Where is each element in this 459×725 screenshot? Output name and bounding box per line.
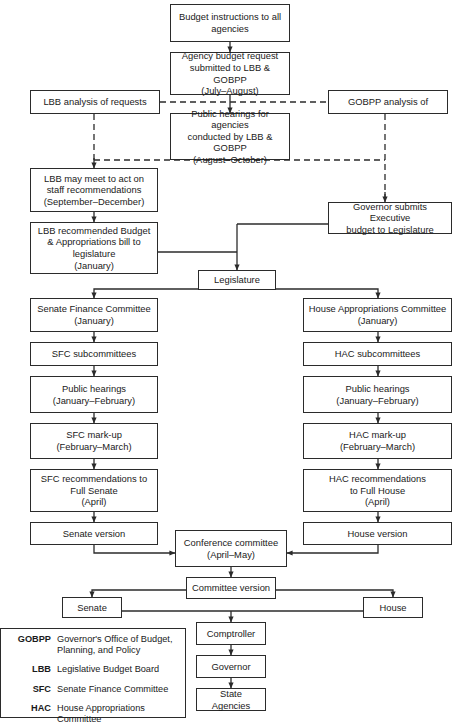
node-gobpp-analysis[interactable]: GOBPP analysis of: [328, 90, 448, 114]
connector-legislature-to-senate-col: [94, 289, 198, 298]
node-senate-version-label: Senate version: [63, 528, 126, 540]
node-comptroller[interactable]: Comptroller: [196, 622, 266, 645]
legend-item-hac: HAC House Appropriations Committee: [5, 703, 181, 725]
legend-item-lbb: LBB Legislative Budget Board: [5, 664, 181, 675]
node-committee-version-label: Committee version: [192, 582, 270, 594]
node-state-agencies[interactable]: State Agencies: [196, 688, 266, 711]
connector-committeeversion-to-house: [276, 590, 393, 597]
node-senate-finance-committee-label: Senate Finance Committee(January): [37, 303, 151, 326]
node-house-appropriations-committee[interactable]: House Appropriations Committee(January): [303, 298, 452, 332]
node-governor-submits-executive-budget[interactable]: Governor submits Executivebudget to Legi…: [328, 202, 452, 234]
node-agency-budget-request[interactable]: Agency budget requestsubmitted to LBB & …: [170, 52, 290, 95]
legend-abbr-hac: HAC: [5, 703, 57, 725]
node-governor-submits-executive-budget-label: Governor submits Executivebudget to Legi…: [332, 201, 448, 236]
node-senate-public-hearings-label: Public hearings(January–February): [53, 383, 135, 406]
node-sfc-recommendations[interactable]: SFC recommendations toFull Senate(April): [30, 469, 158, 512]
node-public-hearings-agencies-label: Public hearings for agenciesconducted by…: [174, 108, 286, 166]
legend: GOBPP Governor's Office of Budget,Planni…: [0, 628, 186, 718]
node-hac-markup-label: HAC mark-up(February–March): [340, 429, 415, 452]
node-house-label: House: [379, 602, 406, 614]
connector-senateversion-to-conference: [94, 545, 175, 553]
node-sfc-markup[interactable]: SFC mark-up(February–March): [30, 423, 158, 459]
node-lbb-recommended-budget[interactable]: LBB recommended Budget& Appropriations b…: [30, 222, 158, 274]
node-legislature[interactable]: Legislature: [198, 270, 276, 290]
node-governor[interactable]: Governor: [196, 655, 266, 678]
node-senate[interactable]: Senate: [62, 597, 122, 618]
node-house[interactable]: House: [363, 597, 423, 618]
legend-item-gobpp: GOBPP Governor's Office of Budget,Planni…: [5, 634, 181, 656]
node-budget-instructions-label: Budget instructions to allagencies: [179, 11, 281, 34]
legend-item-sfc: SFC Senate Finance Committee: [5, 684, 181, 695]
node-gobpp-analysis-label: GOBPP analysis of: [348, 96, 428, 108]
legend-abbr-sfc: SFC: [5, 684, 57, 695]
node-lbb-recommended-budget-label: LBB recommended Budget& Appropriations b…: [38, 225, 151, 271]
node-legislature-label: Legislature: [214, 274, 260, 286]
node-sfc-markup-label: SFC mark-up(February–March): [56, 429, 131, 452]
node-house-version[interactable]: House version: [303, 522, 452, 545]
node-agency-budget-request-label: Agency budget requestsubmitted to LBB & …: [174, 50, 286, 96]
node-lbb-may-meet[interactable]: LBB may meet to act onstaff recommendati…: [30, 168, 158, 212]
node-committee-version[interactable]: Committee version: [186, 577, 276, 599]
node-senate-label: Senate: [77, 602, 107, 614]
node-hac-subcommittees-label: HAC subcommittees: [335, 348, 420, 360]
node-lbb-may-meet-label: LBB may meet to act onstaff recommendati…: [44, 173, 145, 208]
legend-abbr-gobpp: GOBPP: [5, 634, 57, 656]
node-senate-version[interactable]: Senate version: [30, 522, 158, 545]
node-senate-public-hearings[interactable]: Public hearings(January–February): [30, 376, 158, 413]
legend-text-gobpp: Governor's Office of Budget,Planning, an…: [57, 634, 181, 656]
node-state-agencies-label: State Agencies: [200, 688, 262, 711]
node-public-hearings-agencies[interactable]: Public hearings for agenciesconducted by…: [170, 113, 290, 160]
legend-text-sfc: Senate Finance Committee: [57, 684, 181, 695]
node-house-appropriations-committee-label: House Appropriations Committee(January): [309, 303, 447, 326]
legend-abbr-lbb: LBB: [5, 664, 57, 675]
node-hac-recommendations-label: HAC recommendationsto Full House(April): [329, 473, 426, 508]
node-lbb-analysis-label: LBB analysis of requests: [43, 96, 146, 108]
node-hac-recommendations[interactable]: HAC recommendationsto Full House(April): [303, 469, 452, 512]
node-conference-committee[interactable]: Conference committee(April–May): [175, 530, 287, 567]
legend-text-hac: House Appropriations Committee: [57, 703, 181, 725]
node-conference-committee-label: Conference committee(April–May): [184, 537, 278, 560]
node-sfc-subcommittees[interactable]: SFC subcommittees: [30, 342, 158, 366]
node-sfc-recommendations-label: SFC recommendations toFull Senate(April): [41, 473, 147, 508]
node-hac-markup[interactable]: HAC mark-up(February–March): [303, 423, 452, 459]
node-sfc-subcommittees-label: SFC subcommittees: [52, 348, 136, 360]
legend-text-lbb: Legislative Budget Board: [57, 664, 181, 675]
connector-houseversion-to-conference: [287, 545, 378, 553]
connector-legislature-to-house-col: [276, 289, 378, 298]
node-governor-label: Governor: [211, 661, 250, 673]
node-budget-instructions[interactable]: Budget instructions to allagencies: [170, 4, 290, 42]
node-house-public-hearings-label: Public hearings(January–February): [336, 383, 418, 406]
node-house-version-label: House version: [348, 528, 408, 540]
node-house-public-hearings[interactable]: Public hearings(January–February): [303, 376, 452, 413]
connector-committeeversion-to-senate: [92, 590, 186, 597]
node-senate-finance-committee[interactable]: Senate Finance Committee(January): [30, 298, 158, 332]
node-comptroller-label: Comptroller: [207, 628, 255, 640]
node-hac-subcommittees[interactable]: HAC subcommittees: [303, 342, 452, 366]
node-lbb-analysis[interactable]: LBB analysis of requests: [30, 90, 160, 114]
